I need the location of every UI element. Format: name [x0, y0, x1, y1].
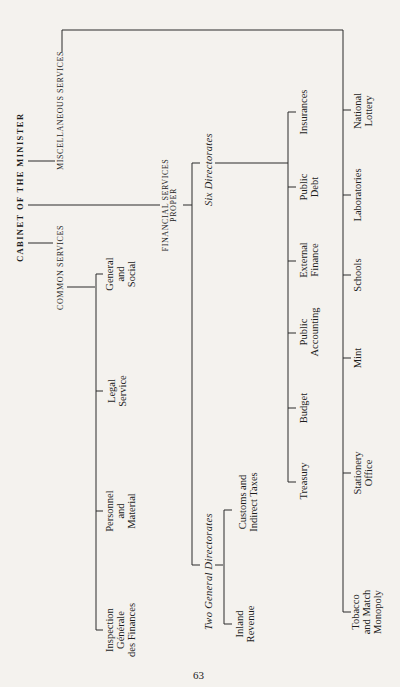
node-public-accounting: Public Accounting [298, 302, 320, 362]
node-general-and-social: General and Social [104, 252, 137, 296]
node-two-general-directorates: Two General Directorates [204, 513, 215, 630]
node-public-debt: Public Debt [298, 169, 320, 205]
node-cabinet-of-the-minister: CABINET OF THE MINISTER [16, 113, 25, 262]
node-tobacco-and-match-monopoly: Tobacco and Match Monopoly [350, 581, 383, 643]
node-customs-and-indirect-taxes: Customs and Indirect Taxes [237, 466, 259, 538]
node-external-finance: External Finance [298, 238, 320, 282]
node-six-directorates: Six Directorates [204, 133, 215, 206]
node-schools: Schools [352, 254, 363, 296]
node-personnel-and-material: Personnel and Material [104, 484, 137, 538]
node-miscellaneous-services: MISCELLANEOUS SERVICES [57, 51, 65, 170]
node-laboratories: Laboratories [352, 162, 363, 228]
node-common-services: COMMON SERVICES [57, 225, 65, 310]
node-inspection-generale-des-finances: Inspection Générale des Finances [104, 595, 137, 665]
node-mint: Mint [352, 341, 363, 375]
node-budget: Budget [298, 388, 309, 428]
node-national-lottery: National Lottery [352, 88, 374, 134]
node-financial-services-proper: FINANCIAL SERVICES PROPER [162, 157, 178, 253]
node-treasury: Treasury [298, 457, 309, 505]
node-inland-revenue: Inland Revenue [234, 600, 256, 648]
page-number: 63 [193, 669, 204, 681]
node-stationery-office: Stationery Office [352, 445, 374, 501]
node-legal-service: Legal Service [106, 369, 128, 413]
node-insurances: Insurances [298, 86, 309, 138]
